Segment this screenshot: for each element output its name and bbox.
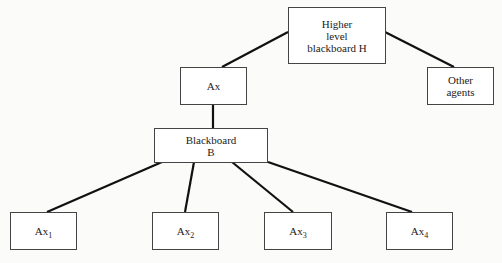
edge-higher-ax: [222, 32, 288, 67]
node-higher-blackboard: Higher level blackboard H: [288, 7, 386, 64]
ax4-label: Ax: [411, 225, 424, 237]
blackboard-line-2: B: [186, 146, 237, 158]
higher-line-3: blackboard H: [307, 42, 367, 54]
other-line-2: agents: [446, 86, 474, 98]
ax1-subscript: 1: [48, 231, 52, 240]
ax3-label: Ax: [289, 225, 302, 237]
ax-label: Ax: [207, 80, 220, 92]
node-blackboard-b: Blackboard B: [154, 128, 268, 163]
ax2-label: Ax: [177, 225, 190, 237]
ax2-subscript: 2: [190, 231, 194, 240]
other-line-1: Other: [446, 74, 474, 86]
ax3-subscript: 3: [303, 231, 307, 240]
edge-blackboard-ax4: [268, 162, 412, 212]
higher-line-2: level: [307, 30, 367, 42]
ax1-label: Ax: [35, 225, 48, 237]
edge-blackboard-ax3: [232, 162, 293, 212]
edge-higher-other: [385, 32, 454, 67]
node-ax4: Ax4: [386, 212, 453, 250]
node-ax1: Ax1: [10, 212, 77, 250]
node-ax3: Ax3: [264, 212, 332, 250]
node-ax2: Ax2: [152, 212, 219, 250]
edge-blackboard-ax1: [47, 162, 162, 212]
blackboard-line-1: Blackboard: [186, 134, 237, 146]
ax4-subscript: 4: [424, 231, 428, 240]
edge-blackboard-ax2: [185, 162, 194, 212]
higher-line-1: Higher: [307, 18, 367, 30]
node-other-agents: Other agents: [427, 67, 494, 105]
node-ax: Ax: [180, 67, 247, 105]
